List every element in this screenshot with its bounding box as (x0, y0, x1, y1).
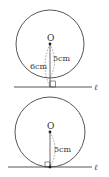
line-label-top: ℓ (94, 83, 98, 92)
figure-line-outside: O 5cm 6cm ℓ (14, 10, 98, 92)
line-label-bottom: ℓ (94, 163, 98, 172)
figure-line-tangent: O 5cm ℓ (8, 97, 98, 172)
radius-label-top: 5cm (53, 54, 71, 63)
center-dot-bottom (49, 131, 52, 134)
radius-label-bottom: 5cm (54, 145, 72, 154)
center-label-bottom: O (47, 121, 54, 131)
distance-label-top: 6cm (30, 62, 48, 71)
center-dot-top (49, 43, 52, 46)
right-angle-mark-top (50, 81, 56, 87)
center-label-top: O (47, 33, 54, 43)
circle-line-diagram: O 5cm 6cm ℓ O 5cm ℓ (0, 0, 109, 177)
tangent-point-dot (49, 166, 52, 169)
